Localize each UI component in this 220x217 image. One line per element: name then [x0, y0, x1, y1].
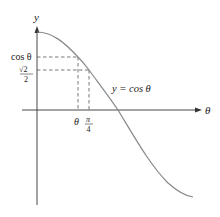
x-marks: θ π 4 — [74, 115, 93, 134]
cosine-diagram: θ y y = cos θ cos θ √2 2 θ π 4 — [0, 0, 220, 217]
cosine-curve — [37, 32, 193, 197]
x-axis-arrow-icon — [195, 108, 202, 113]
y-marks: cos θ √2 2 — [11, 51, 33, 84]
pi4-numerator: π — [86, 115, 91, 124]
y-axis-label: y — [33, 11, 39, 23]
sqrt2-numerator: √2 — [19, 65, 27, 74]
pi4-denominator: 4 — [87, 125, 91, 134]
theta-tick-label: θ — [74, 116, 79, 127]
curve-label: y = cos θ — [111, 83, 151, 94]
guide-lines — [37, 57, 89, 110]
cos-theta-label: cos θ — [11, 51, 32, 62]
sqrt2-denominator: 2 — [24, 75, 28, 84]
x-axis-label: θ — [205, 104, 211, 116]
